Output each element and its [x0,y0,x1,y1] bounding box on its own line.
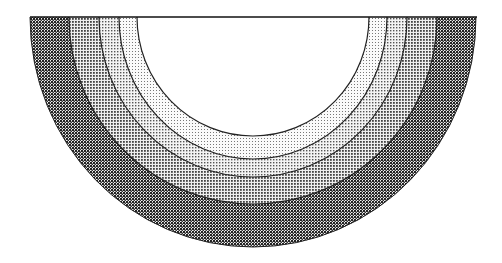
semicircle-diagram [0,0,502,263]
